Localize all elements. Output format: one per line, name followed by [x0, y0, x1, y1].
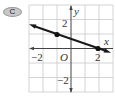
y-axis-arrow-up-icon — [69, 5, 72, 10]
x-tick-2: 2 — [95, 51, 101, 63]
y-tick-2: 2 — [62, 17, 68, 29]
x-axis-label: x — [103, 35, 109, 47]
point-neg1-1 — [54, 32, 59, 37]
origin-label: O — [60, 51, 68, 63]
x-axis-arrow-icon — [29, 47, 34, 50]
y-tick-neg2: −2 — [57, 74, 69, 86]
line-arrow-left-icon — [29, 24, 37, 29]
y-axis-label: y — [73, 5, 79, 17]
x-tick-neg2: −2 — [31, 51, 43, 63]
coordinate-graph: −2 2 2 −2 O x y — [0, 0, 115, 96]
